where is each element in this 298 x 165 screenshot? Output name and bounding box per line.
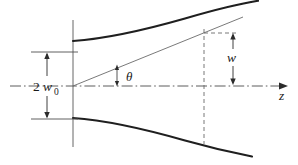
spot-size-arrowhead-down xyxy=(230,79,235,86)
upper-beam-envelope-curve xyxy=(73,1,258,41)
waist-diameter-subscript: 0 xyxy=(54,87,59,97)
gaussian-beam-figure: 2 w 0 θ w z xyxy=(0,0,298,165)
divergence-angle-label: θ xyxy=(126,69,133,84)
spot-size-label: w xyxy=(227,50,236,65)
divergence-asymptote-line xyxy=(73,17,243,86)
waist-diameter-symbol: w xyxy=(43,79,52,94)
waist-dimension-arrowhead-up xyxy=(44,53,49,60)
waist-dimension-arrowhead-down xyxy=(44,112,49,119)
lower-beam-envelope-curve xyxy=(73,118,252,157)
spot-size-arrowhead-up xyxy=(230,33,235,40)
z-axis-label: z xyxy=(278,88,285,103)
waist-diameter-number: 2 xyxy=(33,79,40,94)
figure-canvas: 2 w 0 θ w z xyxy=(0,0,298,165)
